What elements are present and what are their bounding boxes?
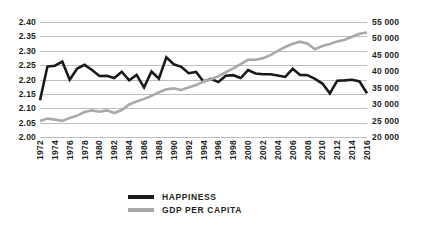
y-axis-left-tick: 2.40 (19, 17, 36, 27)
y-axis-left-tick: 2.15 (19, 89, 36, 99)
x-axis-tick: 2000 (243, 140, 253, 160)
x-axis-tick: 2006 (288, 140, 298, 160)
x-axis-tick: 1980 (94, 140, 104, 160)
legend-label: HAPPINESS (162, 192, 217, 202)
y-axis-left-tick: 2.00 (19, 132, 36, 142)
x-axis-tick: 1992 (184, 140, 194, 160)
y-axis-right-tick: 30 000 (372, 99, 399, 109)
x-axis-tick: 1984 (124, 140, 134, 160)
y-axis-left-tick: 2.05 (19, 118, 36, 128)
y-axis-left-tick: 2.30 (19, 46, 36, 56)
y-axis-right-tick: 45 000 (372, 50, 399, 60)
legend-item[interactable]: GDP PER CAPITA (128, 203, 328, 216)
y-axis-right-tick: 35 000 (372, 83, 399, 93)
x-axis-tick: 1982 (109, 140, 119, 160)
y-axis-left: 2.402.352.302.252.202.152.102.052.00 (0, 0, 36, 226)
x-axis-tick: 1972 (35, 140, 45, 160)
x-axis-tick: 2016 (362, 140, 372, 160)
x-axis-tick: 2008 (303, 140, 313, 160)
x-axis-tick: 1974 (50, 140, 60, 160)
dual-axis-line-chart: 2.402.352.302.252.202.152.102.052.00 55 … (0, 0, 437, 226)
x-axis-tick: 1990 (169, 140, 179, 160)
y-axis-left-tick: 2.25 (19, 60, 36, 70)
series-line-happiness (40, 57, 367, 100)
x-axis-tick: 1988 (154, 140, 164, 160)
y-axis-left-tick: 2.35 (19, 31, 36, 41)
y-axis-right-tick: 55 000 (372, 17, 399, 27)
series-line-gdp-per-capita (40, 33, 367, 121)
series-container (40, 22, 367, 137)
x-axis-tick: 2014 (347, 140, 357, 160)
x-axis-tick: 2012 (332, 140, 342, 160)
plot-area (40, 22, 367, 137)
y-axis-right: 55 00050 00045 00040 00035 00030 00025 0… (372, 0, 434, 226)
x-axis-tick: 2010 (317, 140, 327, 160)
x-axis-tick: 2004 (273, 140, 283, 160)
legend-swatch-icon (128, 195, 154, 199)
chart-legend: HAPPINESSGDP PER CAPITA (128, 190, 328, 216)
y-axis-right-tick: 20 000 (372, 132, 399, 142)
legend-swatch-icon (128, 208, 154, 212)
x-axis-tick: 1978 (80, 140, 90, 160)
gridline (40, 137, 367, 138)
y-axis-right-tick: 50 000 (372, 33, 399, 43)
y-axis-left-tick: 2.20 (19, 75, 36, 85)
x-axis-tick: 1986 (139, 140, 149, 160)
y-axis-right-tick: 40 000 (372, 66, 399, 76)
x-axis-tick: 2002 (258, 140, 268, 160)
y-axis-right-tick: 25 000 (372, 116, 399, 126)
x-axis-tick: 1994 (199, 140, 209, 160)
legend-label: GDP PER CAPITA (162, 205, 242, 215)
y-axis-left-tick: 2.10 (19, 103, 36, 113)
legend-item[interactable]: HAPPINESS (128, 190, 328, 203)
x-axis-tick: 1996 (213, 140, 223, 160)
x-axis: 1972197419761978198019821984198619881990… (40, 140, 367, 186)
x-axis-tick: 1998 (228, 140, 238, 160)
x-axis-tick: 1976 (65, 140, 75, 160)
